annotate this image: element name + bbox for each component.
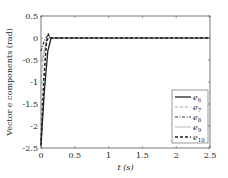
x-tick-label: 2 xyxy=(174,151,179,160)
chart: 0.50-0.5-1-1.5-2-2.5 00.511.522.5 t (s) … xyxy=(0,0,228,178)
x-tick-label: 2.5 xyxy=(204,151,217,160)
x-tick-label: 1.5 xyxy=(136,151,149,160)
y-tick-label: -1 xyxy=(30,78,38,87)
y-axis-label: Vector e components (rad) xyxy=(5,28,14,137)
x-tick-label: 0.5 xyxy=(68,151,81,160)
x-tick-label: 1 xyxy=(106,151,111,160)
y-tick-label: -2.5 xyxy=(23,144,38,153)
legend: e6e7e8e9e10 xyxy=(172,90,208,143)
y-tick-label: 0.5 xyxy=(25,12,38,21)
x-axis-label: t (s) xyxy=(117,163,133,172)
x-tick-label: 0 xyxy=(38,151,43,160)
y-tick-label: 0 xyxy=(33,34,38,43)
y-tick-label: -0.5 xyxy=(23,56,38,65)
y-tick-label: -1.5 xyxy=(23,100,38,109)
y-tick-label: -2 xyxy=(30,122,38,131)
